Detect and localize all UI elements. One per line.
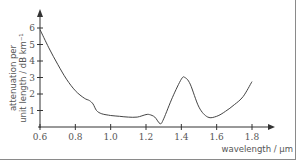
x-tick-label: 1.6 — [210, 132, 225, 142]
x-axis-label: wavelength / μm — [222, 144, 293, 154]
y-tick-label: 6 — [29, 23, 35, 33]
x-tick-label: 0.8 — [68, 132, 83, 142]
attenuation-curve — [40, 30, 252, 124]
y-tick-label: 1 — [29, 106, 35, 116]
y-tick-label: 5 — [29, 40, 35, 50]
x-tick-label: 1.8 — [245, 132, 260, 142]
x-axis-arrow-icon — [268, 124, 275, 130]
y-tick-label: 2 — [29, 89, 35, 99]
attenuation-chart: 123456 0.60.81.01.21.41.61.8 attenuation… — [0, 0, 300, 164]
x-tick-label: 1.0 — [104, 132, 119, 142]
x-tick-label: 1.4 — [174, 132, 189, 142]
y-axis-arrow-icon — [37, 9, 43, 17]
y-axis-label-line1: attenuation per — [8, 44, 18, 111]
y-axis-label-line2: unit length / dB km⁻¹ — [18, 33, 28, 123]
x-tick-label: 0.6 — [33, 132, 48, 142]
x-tick-label: 1.2 — [139, 132, 153, 142]
y-ticks: 123456 — [29, 23, 43, 116]
y-tick-label: 4 — [29, 56, 35, 66]
y-tick-label: 3 — [29, 73, 35, 83]
